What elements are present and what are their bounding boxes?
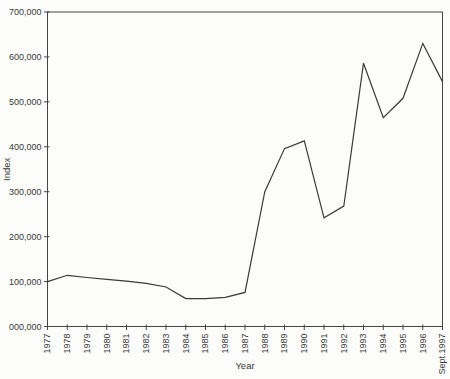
- x-tick-label: 1991: [319, 334, 329, 354]
- y-axis-title: Index: [1, 157, 12, 180]
- y-tick-label: 000,000: [9, 322, 42, 332]
- x-tick-label: Sept.1997: [437, 334, 447, 375]
- y-tick-label: 100,000: [9, 277, 42, 287]
- y-tick-label: 500,000: [9, 97, 42, 107]
- index-series-line: [48, 43, 443, 298]
- x-tick-label: 1984: [181, 334, 191, 354]
- x-tick-label: 1992: [339, 334, 349, 354]
- index-vs-year-line-chart: 000,000100,000200,000300,000400,000500,0…: [0, 0, 450, 379]
- x-tick-label: 1982: [141, 334, 151, 354]
- x-tick-label: 1986: [220, 334, 230, 354]
- x-tick-label: 1979: [82, 334, 92, 354]
- x-tick-label: 1985: [200, 334, 210, 354]
- x-tick-label: 1987: [240, 334, 250, 354]
- x-tick-label: 1990: [299, 334, 309, 354]
- x-tick-label: 1989: [279, 334, 289, 354]
- x-tick-label: 1994: [378, 334, 388, 354]
- x-tick-label: 1996: [418, 334, 428, 354]
- x-tick-label: 1978: [62, 334, 72, 354]
- y-tick-label: 300,000: [9, 187, 42, 197]
- x-axis-title: Year: [235, 360, 254, 371]
- x-tick-label: 1977: [42, 334, 52, 354]
- y-tick-label: 600,000: [9, 52, 42, 62]
- y-tick-label: 400,000: [9, 142, 42, 152]
- x-tick-label: 1993: [358, 334, 368, 354]
- chart-canvas: 000,000100,000200,000300,000400,000500,0…: [0, 0, 450, 379]
- y-tick-label: 700,000: [9, 7, 42, 17]
- x-tick-label: 1988: [260, 334, 270, 354]
- x-tick-label: 1981: [121, 334, 131, 354]
- x-tick-label: 1995: [398, 334, 408, 354]
- x-tick-label: 1980: [102, 334, 112, 354]
- y-tick-label: 200,000: [9, 232, 42, 242]
- x-tick-label: 1983: [161, 334, 171, 354]
